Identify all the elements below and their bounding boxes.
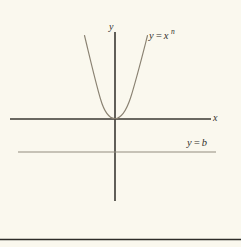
power-function-figure: y x y=xn y=b bbox=[0, 0, 241, 247]
horizontal-line-equation-lhs: y bbox=[187, 137, 192, 148]
horizontal-line-equation-rhs: b bbox=[202, 137, 207, 148]
curve-equation-operator: = bbox=[154, 30, 164, 41]
curve-equation-lhs: y bbox=[149, 30, 154, 41]
x-axis-label: x bbox=[213, 113, 217, 123]
figure-canvas bbox=[0, 0, 241, 247]
y-axis-label: y bbox=[109, 22, 113, 32]
horizontal-line-equation-label: y=b bbox=[187, 138, 207, 149]
curve-equation-label: y=xn bbox=[149, 28, 175, 41]
power-function-curve bbox=[85, 36, 148, 119]
curve-equation-exponent: n bbox=[168, 27, 174, 36]
horizontal-line-equation-operator: = bbox=[192, 137, 202, 148]
